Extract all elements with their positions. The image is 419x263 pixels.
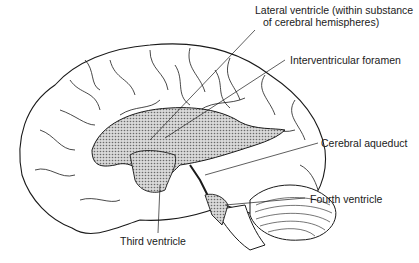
label-interventricular-foramen: Interventricular foramen (290, 54, 401, 66)
brain-ventricles-diagram (0, 0, 419, 263)
label-third-ventricle: Third ventricle (120, 235, 186, 247)
label-lateral-ventricle: Lateral ventricle (within substance of c… (255, 4, 413, 28)
third-ventricle (130, 150, 176, 192)
label-line: Lateral ventricle (within substance (255, 4, 413, 16)
label-cerebral-aqueduct: Cerebral aqueduct (321, 137, 407, 149)
label-line: of cerebral hemispheres) (255, 16, 413, 28)
label-fourth-ventricle: Fourth ventricle (310, 193, 382, 205)
lateral-ventricle (92, 108, 285, 182)
